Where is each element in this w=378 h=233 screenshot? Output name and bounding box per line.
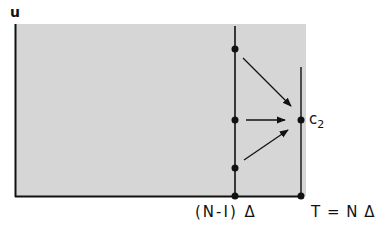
grid-node-axis-right (298, 193, 305, 200)
target-node-c2 (298, 117, 305, 124)
shaded-region (16, 24, 306, 196)
c2-label-main: c (309, 110, 317, 128)
grid-node-axis-left (232, 193, 239, 200)
x-tick-t-equals-n: T = N Δ (311, 203, 376, 221)
y-axis-label: u (10, 4, 20, 20)
c2-label: c2 (309, 110, 324, 131)
grid-node-bottom (232, 165, 239, 172)
grid-node-top (232, 46, 239, 53)
c2-label-subscript: 2 (317, 118, 324, 131)
grid-node-middle (232, 117, 239, 124)
x-tick-n-minus-1: (N-I) Δ (195, 203, 257, 221)
